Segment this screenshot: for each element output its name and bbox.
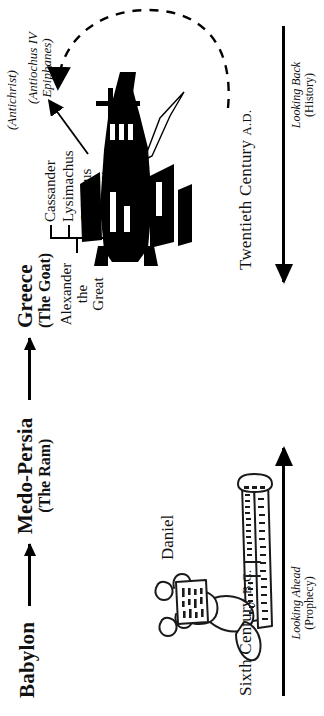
empire-label-greece: Greece xyxy=(14,253,36,328)
bracket-tick-2 xyxy=(68,225,70,239)
left-timeline-caption: Looking Ahead (Prophecy) xyxy=(290,548,316,658)
diagram-canvas: Babylon Medo-Persia (The Ram) Greece (Th… xyxy=(0,0,324,716)
empire-group-medopersia: Medo-Persia (The Ram) xyxy=(14,418,53,535)
empire-label-babylon: Babylon xyxy=(16,622,38,698)
right-century-text: Twentieth Century xyxy=(236,140,255,270)
timeline-arrow-prophecy xyxy=(282,448,285,696)
arrow-medopersia-to-greece xyxy=(28,338,31,400)
right-era-text: A.D. xyxy=(240,109,254,135)
bracket-tick-1 xyxy=(50,225,52,239)
daniel-with-scroll-illustration xyxy=(150,470,280,680)
fighter-jet-silhouette-icon xyxy=(78,68,196,268)
arrow-babylon-to-medopersia xyxy=(28,544,31,606)
right-timeline-caption: Looking Back (History) xyxy=(290,40,316,150)
left-century-text: Sixth Century xyxy=(236,598,255,696)
empire-sub-greece: (The Goat) xyxy=(36,253,53,328)
daniel-label: Daniel xyxy=(158,515,178,560)
diagram-rotated-frame: Babylon Medo-Persia (The Ram) Greece (Th… xyxy=(0,0,324,716)
right-century-label: Twentieth Century A.D. xyxy=(236,109,256,270)
empire-sub-medopersia: (The Ram) xyxy=(36,418,53,535)
left-era-text: B.C. xyxy=(240,569,254,594)
left-century-label: Sixth Century B.C. xyxy=(236,569,256,696)
empire-label-medopersia: Medo-Persia xyxy=(14,418,36,535)
alexander-line-1: Alexander xyxy=(58,255,74,333)
general-label-cassander: Cassander xyxy=(42,160,58,222)
timeline-arrow-history xyxy=(282,26,285,282)
antichrist-note: (Antichrist) xyxy=(5,20,19,130)
general-label-lysimachus: Lysimachus xyxy=(60,150,76,222)
right-caption-plain: (History) xyxy=(303,40,316,150)
empire-group-greece: Greece (The Goat) xyxy=(14,253,53,328)
left-caption-plain: (Prophecy) xyxy=(303,548,316,658)
